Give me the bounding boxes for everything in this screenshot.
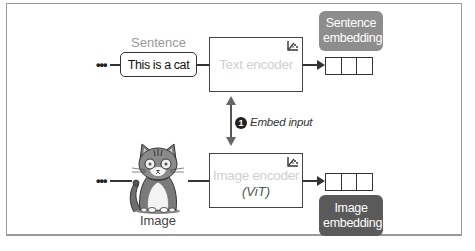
image-encoder-sublabel: (ViT): [242, 184, 270, 199]
vector-cell: [342, 58, 358, 74]
vector-cell: [326, 174, 342, 190]
image-to-encoder-connector: [188, 180, 210, 182]
image-continuation-dots: •••: [96, 174, 107, 187]
step-label: Embed input: [250, 116, 312, 128]
image-encoder-label: Image encoder: [213, 168, 299, 183]
text-encoder-box: Text encoder: [209, 37, 303, 92]
vector-cell: [326, 58, 342, 74]
sentence-embedding-label: Sentence embedding: [323, 16, 379, 46]
vector-cell: [357, 174, 372, 190]
text-continuation-dots: •••: [96, 58, 107, 71]
fine-tune-icon: [286, 40, 300, 52]
embed-double-arrow-shaft: [230, 104, 232, 138]
vector-cell: [342, 174, 358, 190]
sentence-label: Sentence: [120, 35, 197, 50]
step-number-badge: 1: [235, 117, 247, 129]
arrow-down-head: [226, 137, 236, 146]
sentence-embedding-vector: [325, 57, 373, 75]
vector-cell: [357, 58, 372, 74]
sentence-embedding-badge: Sentence embedding: [319, 11, 383, 51]
step-number: 1: [238, 118, 243, 128]
image-embedding-label: Image embedding: [323, 201, 379, 231]
text-encoder-output-line: [303, 64, 318, 66]
sentence-input-text: This is a cat: [128, 58, 190, 72]
cat-image: [126, 140, 188, 214]
fine-tune-icon: [286, 156, 300, 168]
image-encoder-output-line: [303, 180, 318, 182]
text-output-arrowhead: [317, 60, 325, 70]
image-embedding-badge: Image embedding: [319, 195, 383, 236]
image-embedding-vector: [325, 173, 373, 191]
arrow-up-head: [226, 96, 236, 105]
image-output-arrowhead: [317, 176, 325, 186]
image-label: Image: [130, 213, 186, 228]
text-encoder-label: Text encoder: [219, 57, 293, 72]
image-encoder-box: Image encoder (ViT): [209, 153, 303, 208]
sentence-input-box: This is a cat: [120, 52, 197, 77]
